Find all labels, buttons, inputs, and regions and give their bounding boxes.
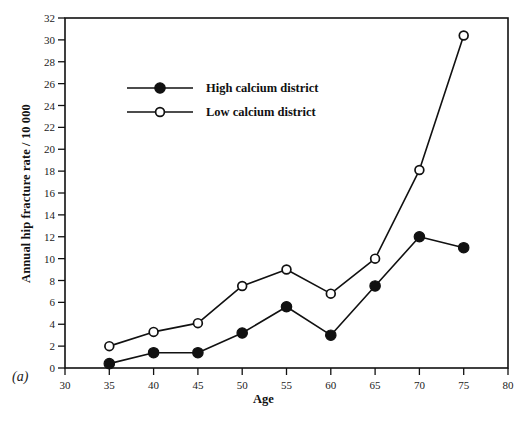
legend-marker-0 — [155, 83, 165, 93]
data-point-0-5 — [326, 330, 336, 340]
x-tick-label: 80 — [503, 379, 514, 391]
x-tick-label: 45 — [192, 379, 203, 391]
data-point-0-8 — [459, 242, 469, 252]
x-tick-label: 65 — [370, 379, 381, 391]
plot-area — [0, 0, 527, 423]
x-tick-label: 35 — [104, 379, 115, 391]
data-point-1-4 — [282, 265, 291, 274]
hip-fracture-rate-chart: Annual hip fracture rate / 10 000 Age (a… — [0, 0, 527, 423]
y-tick-label: 28 — [27, 56, 55, 68]
y-tick-label: 14 — [27, 209, 55, 221]
y-tick-label: 12 — [27, 231, 55, 243]
data-point-0-6 — [370, 281, 380, 291]
series-line-0 — [109, 237, 463, 364]
x-tick-label: 70 — [414, 379, 425, 391]
legend-marker-1 — [156, 108, 165, 117]
plot-frame — [65, 18, 508, 368]
y-tick-label: 26 — [27, 78, 55, 90]
y-axis-ticks — [58, 18, 65, 368]
panel-tag: (a) — [12, 369, 28, 385]
x-tick-label: 55 — [281, 379, 292, 391]
data-point-1-5 — [326, 289, 335, 298]
x-tick-label: 40 — [148, 379, 159, 391]
legend-label-0: High calcium district — [206, 81, 319, 96]
data-point-0-1 — [148, 347, 158, 357]
y-tick-label: 6 — [27, 296, 55, 308]
x-axis-ticks — [65, 368, 508, 375]
data-point-1-3 — [238, 282, 247, 291]
y-tick-label: 18 — [27, 165, 55, 177]
data-point-1-1 — [149, 328, 158, 337]
x-tick-label: 60 — [325, 379, 336, 391]
y-tick-label: 10 — [27, 253, 55, 265]
x-axis-label: Age — [0, 392, 527, 407]
y-tick-label: 24 — [27, 100, 55, 112]
data-point-1-6 — [371, 254, 380, 263]
y-tick-label: 2 — [27, 340, 55, 352]
y-tick-label: 4 — [27, 318, 55, 330]
legend-label-1: Low calcium district — [206, 105, 316, 120]
data-point-0-4 — [281, 302, 291, 312]
x-tick-label: 75 — [458, 379, 469, 391]
y-tick-label: 22 — [27, 121, 55, 133]
x-tick-label: 50 — [237, 379, 248, 391]
data-point-0-2 — [193, 347, 203, 357]
data-point-0-3 — [237, 328, 247, 338]
data-point-1-2 — [194, 319, 203, 328]
y-tick-label: 0 — [27, 362, 55, 374]
y-tick-label: 30 — [27, 34, 55, 46]
y-tick-label: 16 — [27, 187, 55, 199]
data-point-0-0 — [104, 358, 114, 368]
x-tick-label: 30 — [60, 379, 71, 391]
y-tick-label: 32 — [27, 12, 55, 24]
data-point-1-8 — [459, 31, 468, 40]
data-point-0-7 — [414, 232, 424, 242]
y-tick-label: 8 — [27, 275, 55, 287]
y-tick-label: 20 — [27, 143, 55, 155]
legend-marks — [127, 83, 193, 117]
data-point-1-0 — [105, 342, 114, 351]
data-point-1-7 — [415, 166, 424, 175]
